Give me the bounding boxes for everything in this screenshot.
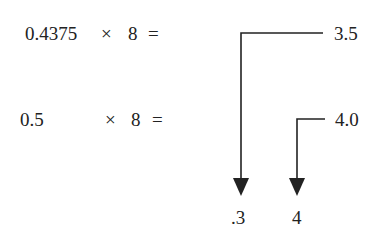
output-1: .3: [231, 208, 245, 227]
connector-arrows: [0, 0, 385, 234]
arrow-2: [289, 119, 325, 196]
arrowhead-down-icon: [289, 178, 305, 196]
arrowhead-down-icon: [233, 178, 249, 196]
arrow-1: [233, 33, 323, 196]
output-2: 4: [292, 208, 302, 227]
